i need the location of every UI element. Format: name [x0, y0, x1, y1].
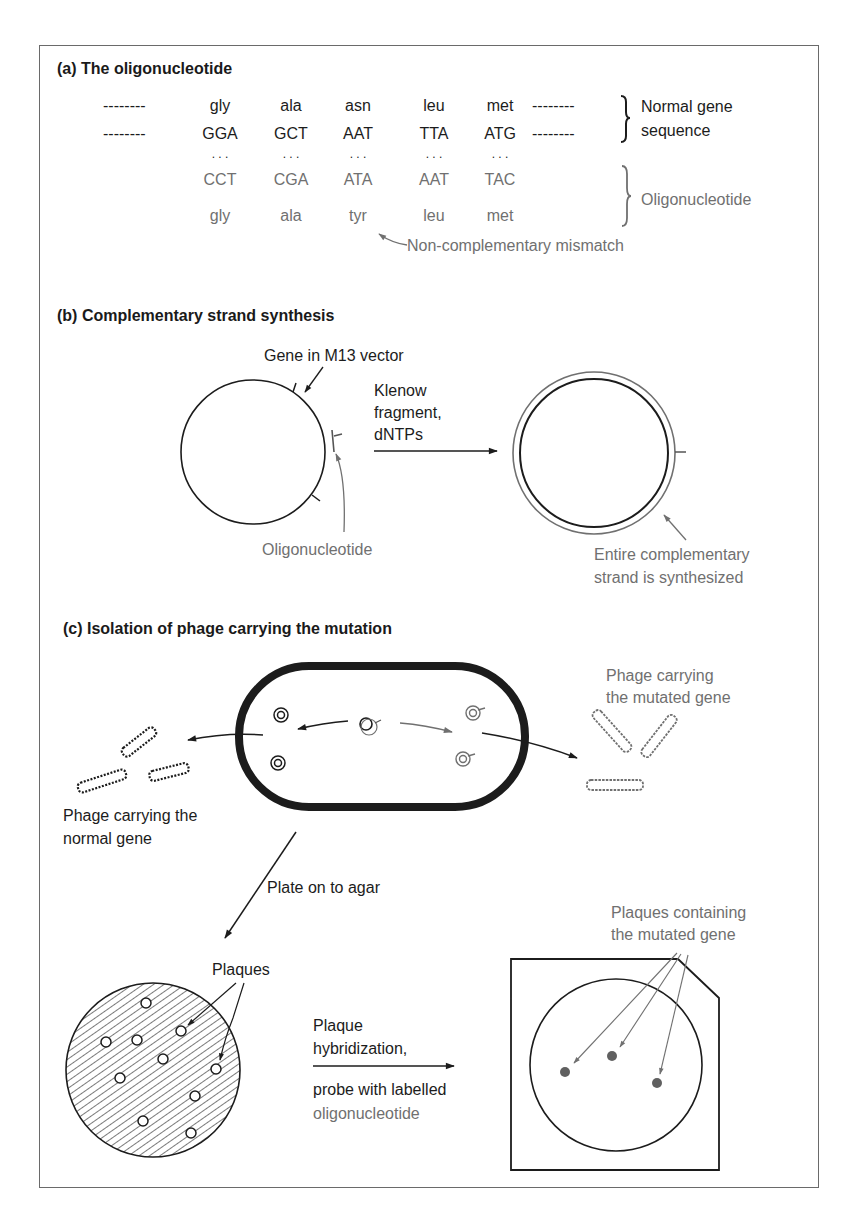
normal-codon-2: GCT: [274, 125, 308, 142]
dsdna-inner-circle: [520, 379, 668, 527]
oligo-aa-1: gly: [210, 207, 230, 224]
oligo-codon-5: TAC: [485, 171, 516, 188]
oligo-aa-2: ala: [280, 207, 301, 224]
oligo-codon-2: CGA: [274, 171, 309, 188]
plaques-label: Plaques: [212, 961, 270, 978]
mismatch-label: Non-complementary mismatch: [407, 237, 624, 254]
agar-plate-icon: [60, 980, 250, 1170]
oligo-aa-3: tyr: [349, 207, 367, 224]
mutated-phage-label-1: Phage carrying: [606, 667, 714, 684]
mutant-ds-dna-icons: [456, 706, 485, 766]
panel-a-title: (a) The oligonucleotide: [57, 60, 232, 77]
normal-aa-2: ala: [280, 97, 301, 114]
host-cell-icon: [239, 666, 525, 807]
normal-aa-1: gly: [210, 97, 230, 114]
pair-dots-5: . . .: [492, 147, 509, 161]
right-dashes-bottom: --------: [532, 125, 575, 142]
probe-label: probe with labelled: [313, 1081, 446, 1098]
normal-codon-row: GGA GCT AAT TTA ATG: [202, 125, 516, 142]
oligo-aa-4: leu: [423, 207, 444, 224]
mutant-release-arrow-icon: [482, 733, 577, 758]
normal-phage-label-1: Phage carrying the: [63, 807, 197, 824]
site-directed-mutagenesis-diagram: (a) The oligonucleotide -------- -------…: [0, 0, 855, 1228]
pair-dots-2: . . .: [283, 147, 300, 161]
mutated-plaque-pointer-icons: [574, 953, 688, 1074]
plaque-label: Plaque: [313, 1017, 363, 1034]
entire-strand-label-1: Entire complementary: [594, 546, 750, 563]
mutated-plaques-label-2: the mutated gene: [611, 926, 736, 943]
gene-start-tick-icon: [293, 383, 296, 392]
pairing-dots-row: . . . . . . . . . . . . . . .: [212, 147, 509, 161]
normal-amino-acid-row: gly ala asn leu met: [210, 97, 514, 114]
panel-c-title: (c) Isolation of phage carrying the muta…: [63, 620, 392, 637]
oligo-pointer-arrow-icon: [336, 454, 344, 532]
hybridized-spot-icons: [560, 1051, 662, 1088]
normal-phage-label-2: normal gene: [63, 830, 152, 847]
right-replication-arrow-icon: [400, 723, 452, 732]
mutated-phage-label-2: the mutated gene: [606, 689, 731, 706]
normal-aa-5: met: [487, 97, 514, 114]
normal-ds-dna-icons: [271, 708, 288, 770]
normal-gene-label-1: Normal gene: [641, 98, 733, 115]
entire-strand-label-2: strand is synthesized: [594, 569, 743, 586]
oligo-amino-acid-row: gly ala tyr leu met: [210, 207, 514, 224]
left-dashes-top: --------: [103, 97, 146, 114]
oligo-aa-5: met: [487, 207, 514, 224]
pair-dots-1: . . .: [212, 147, 229, 161]
normal-codon-4: TTA: [419, 125, 448, 142]
pair-dots-3: . . .: [350, 147, 367, 161]
left-dashes-bottom: --------: [103, 125, 146, 142]
mismatch-pointer-icon: [379, 234, 407, 245]
gene-end-tick-icon: [312, 495, 320, 501]
gene-in-m13-label: Gene in M13 vector: [264, 347, 404, 364]
normal-brace-icon: [621, 96, 630, 142]
normal-phage-icons: [77, 726, 190, 794]
normal-aa-4: leu: [423, 97, 444, 114]
normal-release-arrow-icon: [188, 734, 263, 740]
filter-membrane-icon: [511, 959, 719, 1170]
dsdna-outer-circle: [513, 372, 675, 534]
left-replication-arrow-icon: [298, 721, 348, 729]
oligo-codon-3: ATA: [344, 171, 373, 188]
complementary-pointer-icon: [664, 515, 686, 540]
normal-gene-label-2: sequence: [641, 122, 710, 139]
hybridization-label: hybridization,: [313, 1040, 407, 1057]
panel-a: (a) The oligonucleotide -------- -------…: [57, 60, 751, 254]
oligo-codon-4: AAT: [419, 171, 449, 188]
oligo-codon-1: CCT: [204, 171, 237, 188]
fragment-label: fragment,: [374, 404, 442, 421]
panel-c: (c) Isolation of phage carrying the muta…: [60, 620, 746, 1170]
panel-b-title: (b) Complementary strand synthesis: [57, 307, 335, 324]
normal-aa-3: asn: [345, 97, 371, 114]
annealed-oligo-icon: [332, 430, 342, 452]
labelled-oligo-label: oligonucleotide: [313, 1105, 420, 1122]
normal-codon-5: ATG: [484, 125, 516, 142]
klenow-label: Klenow: [374, 382, 427, 399]
oligo-codon-row: CCT CGA ATA AAT TAC: [204, 171, 516, 188]
oligo-brace-icon: [622, 166, 631, 226]
oligonucleotide-label-b: Oligonucleotide: [262, 541, 372, 558]
mutant-phage-icons: [587, 708, 678, 790]
dntps-label: dNTPs: [374, 426, 423, 443]
oligonucleotide-brace-label: Oligonucleotide: [641, 191, 751, 208]
mutated-plaques-label-1: Plaques containing: [611, 904, 746, 921]
normal-codon-3: AAT: [343, 125, 373, 142]
plate-on-agar-label: Plate on to agar: [267, 879, 381, 896]
gene-pointer-arrow-icon: [305, 367, 323, 392]
right-dashes-top: --------: [532, 97, 575, 114]
normal-codon-1: GGA: [202, 125, 238, 142]
panel-b: (b) Complementary strand synthesis Gene …: [57, 307, 750, 586]
central-dna-icon: [360, 718, 381, 735]
m13-vector-circle: [181, 380, 325, 524]
pair-dots-4: . . .: [426, 147, 443, 161]
